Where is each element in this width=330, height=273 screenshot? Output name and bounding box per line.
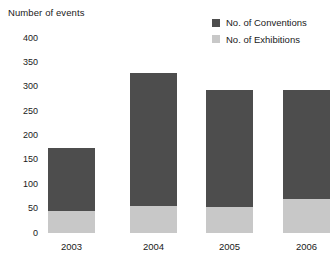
bar-segment-exhibitions[interactable] xyxy=(130,206,177,233)
bar-group[interactable]: 2004 xyxy=(130,73,177,233)
bar-group[interactable]: 2005 xyxy=(206,90,253,233)
legend-swatch-conventions xyxy=(212,19,220,27)
bar-segment-exhibitions[interactable] xyxy=(283,199,330,233)
bar-segment-conventions[interactable] xyxy=(48,148,95,211)
bar-segment-conventions[interactable] xyxy=(283,90,330,199)
bar-group[interactable]: 2006 xyxy=(283,90,330,233)
x-category-label: 2005 xyxy=(206,242,253,252)
bar-segment-conventions[interactable] xyxy=(130,73,177,206)
x-category-label: 2004 xyxy=(130,242,177,252)
bar-group[interactable]: 2003 xyxy=(48,148,95,233)
legend-label: No. of Conventions xyxy=(226,18,307,28)
x-category-label: 2003 xyxy=(48,242,95,252)
bar-segment-conventions[interactable] xyxy=(206,90,253,207)
legend-label: No. of Exhibitions xyxy=(226,35,300,45)
bar-segment-exhibitions[interactable] xyxy=(206,207,253,233)
legend-item[interactable]: No. of Exhibitions xyxy=(212,35,307,45)
legend-swatch-exhibitions xyxy=(212,35,220,43)
bar-segment-exhibitions[interactable] xyxy=(48,211,95,233)
legend-item[interactable]: No. of Conventions xyxy=(212,18,307,28)
x-category-label: 2006 xyxy=(283,242,330,252)
chart-legend: No. of ConventionsNo. of Exhibitions xyxy=(212,18,307,51)
